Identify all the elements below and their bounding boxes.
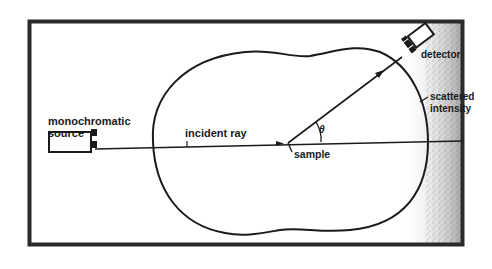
scattered-intensity-label-line1: scattered	[430, 91, 474, 102]
scattered-intensity-label-line2: intensity	[430, 103, 472, 114]
source-label-line2: source	[48, 127, 84, 139]
scattering-diagram: monochromatic source incident ray sample…	[0, 0, 492, 269]
angle-label: θ	[319, 124, 325, 135]
detector-label: detector	[421, 49, 461, 60]
source-label-line1: monochromatic	[48, 115, 131, 127]
incident-ray-label: incident ray	[185, 127, 248, 139]
sample-label: sample	[294, 148, 330, 160]
